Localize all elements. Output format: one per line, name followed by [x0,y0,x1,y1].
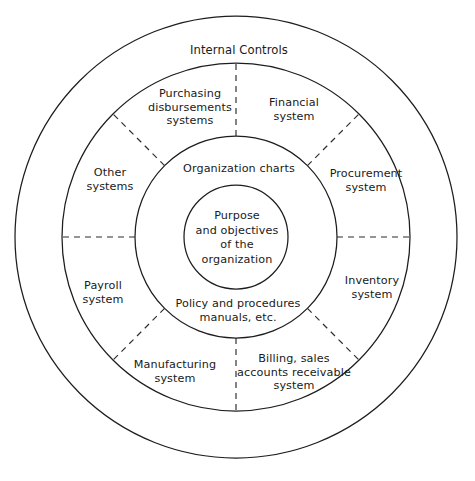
sector-divider-225 [113,308,165,360]
outer-circle [15,16,457,458]
sector-divider-315 [113,114,165,166]
sector-divider-45 [307,114,359,166]
core-circle [184,185,288,289]
third-circle [135,136,337,338]
sector-divider-group [62,63,410,411]
sector-divider-135 [307,308,359,360]
ring-graphics [0,0,475,481]
concentric-ring-diagram: Internal Controls Purchasing disbursemen… [0,0,475,481]
